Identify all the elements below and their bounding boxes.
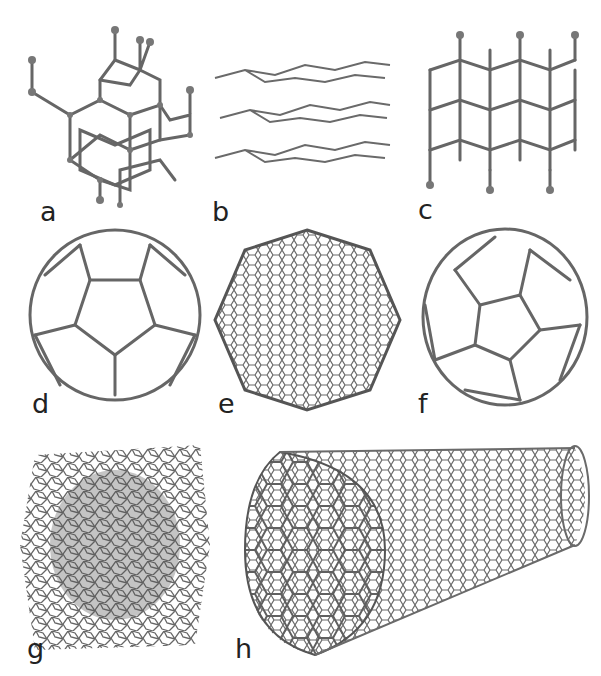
amorphous-carbon-illustration <box>15 435 215 665</box>
diamond-structure-illustration <box>20 20 200 220</box>
lonsdaleite-structure-illustration <box>410 20 595 220</box>
c540-fullerene-illustration <box>210 225 405 415</box>
panel-a-diamond: a <box>20 20 200 220</box>
panel-label-e: e <box>218 390 235 417</box>
panel-d-c60: d <box>20 225 205 415</box>
carbon-nanotube-illustration <box>235 440 595 665</box>
carbon-allotropes-figure: a b c <box>0 0 601 676</box>
panel-label-f: f <box>418 390 428 417</box>
panel-label-g: g <box>27 635 44 662</box>
panel-label-c: c <box>418 196 433 223</box>
c60-fullerene-illustration <box>20 225 205 415</box>
panel-label-d: d <box>32 390 49 417</box>
panel-f-c70: f <box>410 225 595 415</box>
panel-h-carbon-nanotube: h <box>235 440 595 665</box>
panel-label-a: a <box>40 198 57 225</box>
panel-label-b: b <box>212 198 229 225</box>
panel-b-graphite: b <box>205 40 395 220</box>
panel-g-amorphous-carbon: g <box>15 435 215 665</box>
panel-label-h: h <box>235 635 252 662</box>
graphite-structure-illustration <box>205 40 395 180</box>
panel-e-c540: e <box>210 225 405 415</box>
c70-fullerene-illustration <box>410 225 595 415</box>
panel-c-lonsdaleite: c <box>410 20 595 220</box>
